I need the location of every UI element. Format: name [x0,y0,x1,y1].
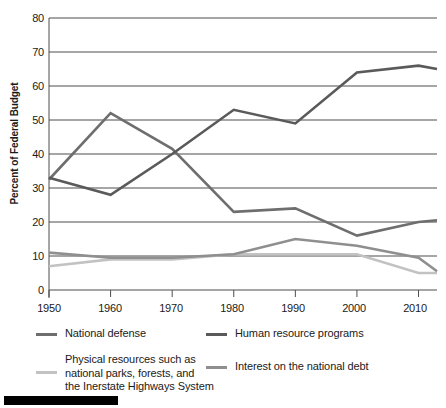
legend-swatch-icon [36,333,57,336]
legend-swatch-icon [36,371,57,374]
x-tick-label: 2000 [331,302,377,314]
legend-label: Human resource programs [235,327,364,341]
legend-label: Interest on the national debt [235,360,368,374]
x-tick-label: 1950 [26,302,72,314]
x-tick-label: 1980 [209,302,255,314]
series-line [49,66,437,195]
chart-plot-svg [0,0,446,318]
x-tick-label: 1990 [270,302,316,314]
chart-container: Percent of Federal Budget 80 70 60 50 40… [0,0,446,408]
series-line [49,113,437,235]
legend-swatch-icon [206,333,227,336]
legend-label: National defense [65,327,146,341]
legend-item-national-defense: National defense [36,327,146,341]
bottom-black-bar [4,396,118,405]
legend-item-physical-resources: Physical resources such as national park… [36,353,214,394]
legend-swatch-icon [206,366,227,369]
legend-label: Physical resources such as national park… [65,353,214,394]
x-tick-label: 1960 [87,302,133,314]
x-tick-label: 2010 [392,302,438,314]
plot-area: Percent of Federal Budget 80 70 60 50 40… [0,0,446,318]
x-tick-label: 1970 [148,302,194,314]
legend-item-human-resource-programs: Human resource programs [206,327,364,341]
chart-legend: National defense Human resource programs… [0,325,446,390]
legend-item-interest-national-debt: Interest on the national debt [206,360,368,374]
